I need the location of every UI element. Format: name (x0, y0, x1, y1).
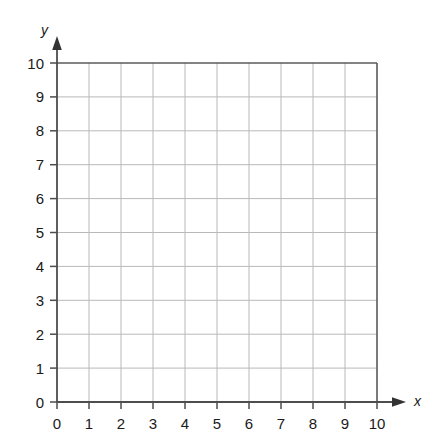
x-tick-label-7: 7 (277, 415, 285, 432)
y-tick-label-8: 8 (36, 122, 44, 139)
x-tick-label-5: 5 (213, 415, 221, 432)
y-tick-label-4: 4 (36, 258, 44, 275)
coordinate-grid-figure: 0 1 2 3 4 5 6 7 8 9 10 0 1 2 3 4 5 6 7 8… (0, 0, 429, 440)
y-tick-label-1: 1 (36, 360, 44, 377)
figure-background (0, 0, 429, 440)
x-tick-label-1: 1 (85, 415, 93, 432)
x-tick-label-6: 6 (245, 415, 253, 432)
x-tick-label-2: 2 (117, 415, 125, 432)
y-axis-title: y (40, 22, 49, 38)
y-tick-label-3: 3 (36, 292, 44, 309)
x-tick-label-9: 9 (341, 415, 349, 432)
x-tick-label-0: 0 (53, 415, 61, 432)
x-tick-label-4: 4 (181, 415, 189, 432)
y-tick-label-0: 0 (36, 394, 44, 411)
coordinate-plane-svg: 0 1 2 3 4 5 6 7 8 9 10 0 1 2 3 4 5 6 7 8… (0, 0, 429, 440)
x-tick-label-10: 10 (369, 415, 386, 432)
x-axis-title: x (413, 393, 422, 409)
x-tick-label-3: 3 (149, 415, 157, 432)
y-tick-label-7: 7 (36, 156, 44, 173)
y-tick-label-10: 10 (27, 55, 44, 72)
x-tick-label-8: 8 (309, 415, 317, 432)
y-tick-label-9: 9 (36, 88, 44, 105)
y-tick-label-6: 6 (36, 190, 44, 207)
y-tick-label-2: 2 (36, 326, 44, 343)
y-tick-label-5: 5 (36, 224, 44, 241)
